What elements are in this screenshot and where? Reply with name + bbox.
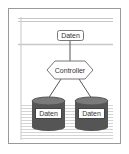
top-data-label: Daten [61, 32, 80, 39]
data-store-left-label: Daten [39, 110, 58, 117]
data-store-right-label: Daten [82, 110, 101, 117]
controller-label: Controller [55, 67, 86, 74]
architecture-diagram: Daten Controller Daten Daten [0, 0, 129, 154]
data-store-left: Daten [32, 97, 65, 131]
controller-node: Controller [47, 61, 93, 79]
top-data-box: Daten [58, 31, 84, 41]
data-store-right: Daten [75, 97, 108, 131]
